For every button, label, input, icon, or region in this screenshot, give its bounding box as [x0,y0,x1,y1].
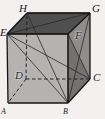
vertex-label-D: D [15,70,23,81]
vertex-label-E: E [0,27,7,38]
vertex-label-G: G [92,3,100,14]
vertex-label-B: B [63,108,68,116]
vertex-label-A: A [1,108,6,116]
cube-figure: H G E F D C A B [0,0,105,119]
vertex-label-C: C [93,72,100,83]
vertex-label-H: H [19,3,27,14]
cube-diagram-svg [0,0,105,119]
vertex-label-F: F [75,30,82,41]
